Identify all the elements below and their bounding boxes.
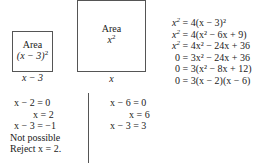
- case-line: x = 2: [10, 109, 61, 121]
- eq-rhs: = 4(x − 3)²: [183, 17, 226, 28]
- eq-rhs: = 3(x² − 8x + 12): [183, 63, 252, 74]
- small-area-exp: 2: [45, 49, 49, 57]
- case-line: x − 3 = −1: [10, 120, 61, 132]
- eq-rhs: = 4(x² − 6x + 9): [183, 29, 247, 40]
- case-line: x − 3 = 3: [110, 120, 150, 132]
- equation-row: x2 = 4x² − 24x + 36: [164, 40, 252, 52]
- eq-lhs-exp: 2: [177, 39, 181, 47]
- equation-row: 0 = 3x² − 24x + 36: [164, 52, 252, 64]
- large-square-side-label: x: [77, 73, 146, 85]
- eq-rhs: = 3x² − 24x + 36: [183, 52, 250, 63]
- small-square-side-label: x − 3: [12, 72, 53, 84]
- case-line: x − 6 = 0: [110, 97, 150, 109]
- small-area-expr: (x − 3): [17, 50, 45, 61]
- large-square-area-value: x2: [77, 34, 146, 46]
- equation-row: 0 = 3(x − 2)(x − 6): [164, 75, 252, 87]
- large-area-exp: 2: [112, 33, 116, 41]
- case-right: x − 6 = 0 x = 6 x − 3 = 3: [110, 97, 150, 132]
- small-square-area-value: (x − 3)2: [12, 50, 53, 62]
- case-line: Reject x = 2.: [10, 143, 61, 155]
- eq-lhs: 0: [175, 63, 180, 74]
- case-line: Not possible: [10, 132, 61, 144]
- eq-rhs: = 4x² − 24x + 36: [183, 40, 250, 51]
- case-line: x − 2 = 0: [10, 97, 61, 109]
- area-word: Area: [23, 39, 42, 50]
- eq-lhs-exp: 2: [177, 16, 181, 24]
- derivation-block: x2 = 4(x − 3)² x2 = 4(x² − 6x + 9) x2 = …: [164, 17, 252, 87]
- eq-lhs: 0: [175, 75, 180, 86]
- eq-lhs: 0: [175, 52, 180, 63]
- eq-lhs-exp: 2: [177, 28, 181, 36]
- case-line: x = 6: [110, 109, 150, 121]
- case-left: x − 2 = 0 x = 2 x − 3 = −1 Not possible …: [10, 97, 61, 155]
- vertical-divider: [88, 93, 89, 163]
- equation-row: 0 = 3(x² − 8x + 12): [164, 63, 252, 75]
- eq-rhs: = 3(x − 2)(x − 6): [183, 75, 251, 86]
